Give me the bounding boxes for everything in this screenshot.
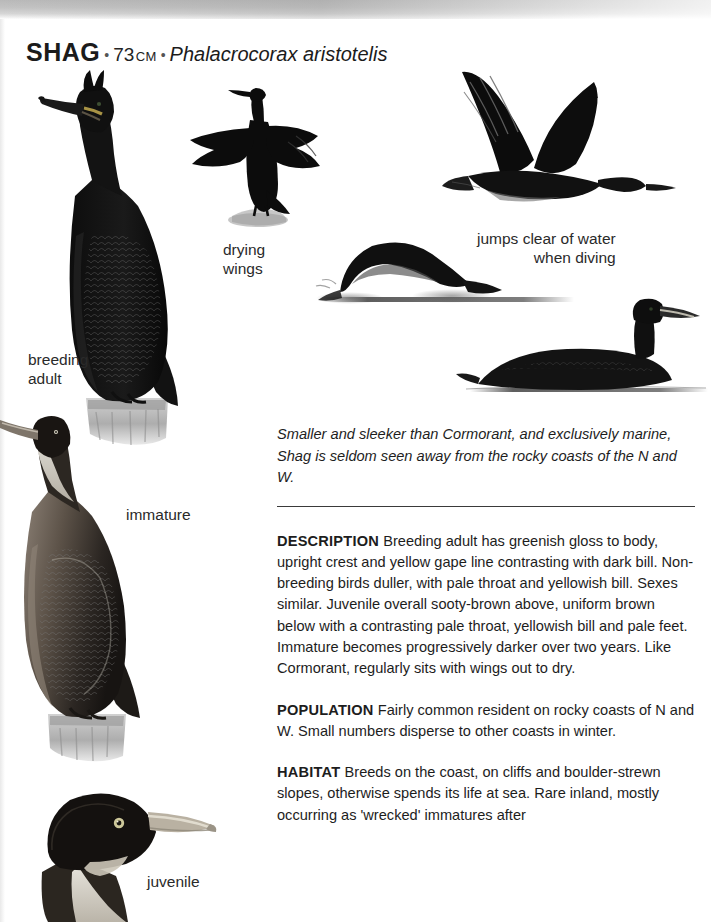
section-heading-population: POPULATION [277, 702, 378, 718]
section-heading-habitat: HABITAT [277, 764, 345, 780]
label-juvenile: juvenile [147, 872, 200, 891]
species-latin-name: Phalacrocorax aristotelis [170, 43, 388, 65]
header-separator-1: • [100, 47, 113, 63]
species-size-value: 73 [113, 44, 134, 65]
section-divider [277, 506, 695, 507]
page-left-edge [0, 19, 5, 922]
label-breeding-adult: breeding adult [28, 350, 88, 388]
intro-paragraph: Smaller and sleeker than Cormorant, and … [277, 424, 697, 489]
breeding-adult-perched-shag [38, 70, 178, 445]
section-body-description: Breeding adult has greenish gloss to bod… [277, 533, 693, 677]
section-description: DESCRIPTION Breeding adult has greenish … [277, 531, 697, 680]
scan-shadow-highlight [0, 0, 711, 19]
label-jumps-clear-of-water: jumps clear of water when diving [477, 229, 616, 267]
label-drying-wings: drying wings [223, 240, 265, 278]
shag-swimming [456, 299, 708, 392]
species-text-column: Smaller and sleeker than Cormorant, and … [277, 424, 697, 826]
field-guide-page: SHAG•73 CM•Phalacrocorax aristotelis bre… [0, 0, 711, 922]
species-size-unit: CM [136, 49, 157, 64]
immature-shag-perched [0, 416, 140, 761]
shag-in-flight [442, 72, 676, 202]
header-separator-2: • [157, 47, 170, 63]
section-heading-description: DESCRIPTION [277, 533, 383, 549]
species-header: SHAG•73 CM•Phalacrocorax aristotelis [26, 38, 387, 67]
label-immature: immature [126, 505, 191, 524]
species-name: SHAG [26, 38, 100, 66]
section-population: POPULATION Fairly common resident on roc… [277, 700, 697, 743]
section-habitat: HABITAT Breeds on the coast, on cliffs a… [277, 762, 697, 826]
juvenile-shag-head [42, 793, 217, 922]
shag-drying-wings-silhouette [190, 88, 320, 227]
